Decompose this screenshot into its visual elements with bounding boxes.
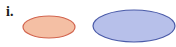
large-ellipse	[93, 10, 175, 42]
small-ellipse	[23, 16, 75, 38]
ellipse-diagram	[0, 0, 176, 47]
